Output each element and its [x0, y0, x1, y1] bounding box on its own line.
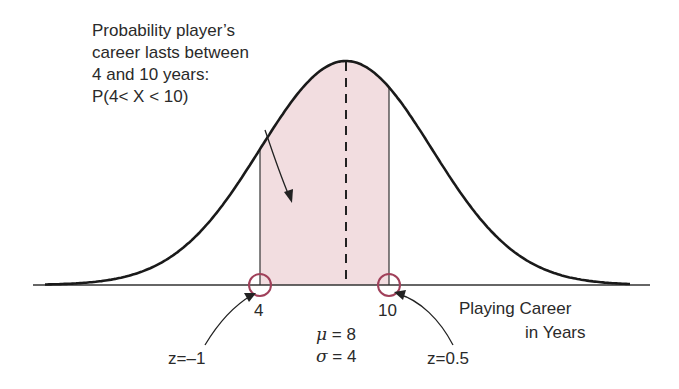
tick-label-4: 4	[254, 300, 263, 321]
sigma-value: = 4	[328, 347, 357, 366]
mu-symbol: μ	[316, 324, 327, 344]
x-axis-label-line2: in Years	[525, 322, 586, 343]
z-score-left: z=–1	[168, 348, 205, 369]
annotation-line: P(4< X < 10)	[92, 86, 249, 108]
annotation-text: Probability player’s career lasts betwee…	[92, 20, 249, 108]
z-left-arrow	[205, 295, 252, 345]
shaded-probability-area	[260, 61, 389, 285]
sd-label: σ = 4	[316, 346, 356, 367]
z-score-right: z=0.5	[427, 348, 469, 369]
annotation-line: career lasts between	[92, 42, 249, 64]
annotation-line: Probability player’s	[92, 20, 249, 42]
sigma-symbol: σ	[316, 346, 328, 366]
z-right-arrow	[398, 294, 453, 345]
tick-label-10: 10	[378, 300, 397, 321]
annotation-line: 4 and 10 years:	[92, 64, 249, 86]
mu-value: = 8	[327, 325, 356, 344]
mean-label: μ = 8	[316, 324, 356, 345]
x-axis-label-line1: Playing Career	[459, 298, 571, 319]
z-right-arrowhead	[394, 290, 406, 300]
